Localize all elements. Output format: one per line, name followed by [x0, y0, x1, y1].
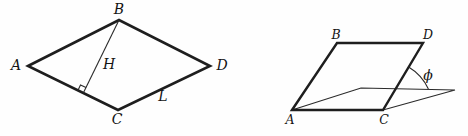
diagram-page: A B C D H L A B C D ϕ — [0, 0, 468, 136]
vertex-d-label: D — [215, 57, 227, 73]
vertex-d-label: D — [422, 27, 433, 42]
vertex-a-label: A — [284, 112, 294, 127]
horizontal-plane-outline — [292, 88, 455, 110]
tilted-parallelogram-outline — [292, 43, 423, 110]
side-length-label: L — [157, 88, 167, 104]
tilted-parallelogram-figure: A B C D ϕ — [284, 27, 455, 127]
angle-phi-label: ϕ — [423, 67, 433, 83]
vertex-a-label: A — [9, 57, 21, 73]
rhombus-figure: A B C D H L — [9, 1, 228, 127]
vertex-b-label: B — [330, 27, 340, 42]
vertex-c-label: C — [112, 111, 123, 127]
height-label: H — [102, 56, 116, 72]
vertex-c-label: C — [379, 112, 389, 127]
vertex-b-label: B — [113, 1, 124, 17]
rhombus-outline — [28, 20, 210, 110]
diagram-canvas: A B C D H L A B C D ϕ — [0, 0, 468, 136]
